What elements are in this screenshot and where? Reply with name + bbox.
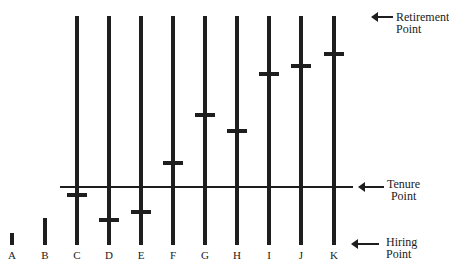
bar-label-b: B	[35, 249, 55, 261]
bar-label-c: C	[67, 249, 87, 261]
retirement-arrow-icon	[377, 16, 393, 18]
bar-label-g: G	[195, 249, 215, 261]
career-bar-j	[299, 16, 303, 245]
career-bar-f	[171, 16, 175, 245]
hiring-label-line2: Point	[386, 248, 417, 260]
retirement-label-line2: Point	[396, 23, 449, 35]
hiring-point-label: Hiring Point	[386, 236, 417, 260]
tick-mark-i	[259, 72, 279, 76]
tenure-point-label: Tenure Point	[387, 178, 420, 202]
career-bar-a	[10, 233, 14, 245]
tick-mark-d	[99, 218, 119, 222]
hiring-arrow-icon	[357, 243, 379, 245]
tick-mark-g	[195, 113, 215, 117]
tick-mark-j	[291, 64, 311, 68]
retirement-point-label: Retirement Point	[396, 11, 449, 35]
career-bar-d	[107, 16, 111, 245]
tick-mark-e	[131, 210, 151, 214]
tick-mark-h	[227, 129, 247, 133]
bar-label-e: E	[131, 249, 151, 261]
career-bar-b	[43, 218, 47, 245]
bar-label-i: I	[259, 249, 279, 261]
bar-label-j: J	[291, 249, 311, 261]
tenure-label-line2: Point	[387, 190, 420, 202]
career-bar-c	[75, 16, 79, 245]
tick-mark-f	[163, 161, 183, 165]
career-bar-i	[267, 16, 271, 245]
career-bar-k	[332, 16, 336, 245]
bar-label-a: A	[2, 249, 22, 261]
bar-label-h: H	[227, 249, 247, 261]
career-bar-g	[203, 16, 207, 245]
bar-label-f: F	[163, 249, 183, 261]
tenure-arrow-icon	[364, 186, 384, 188]
bar-label-k: K	[324, 249, 344, 261]
bar-label-d: D	[99, 249, 119, 261]
tick-mark-k	[324, 52, 344, 56]
tick-mark-c	[67, 193, 87, 197]
